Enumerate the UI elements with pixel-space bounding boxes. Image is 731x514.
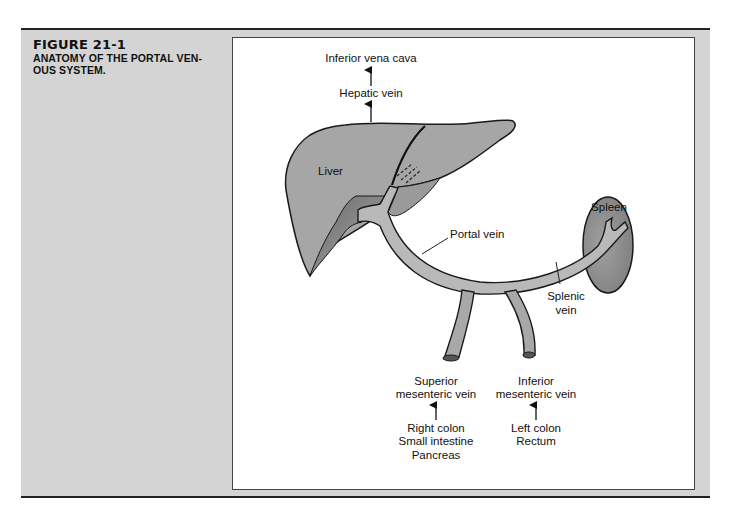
label-imv-source-1: Left colon [511,422,561,434]
inferior-mesenteric-vein [505,290,535,356]
label-imv-2: mesenteric vein [496,388,577,400]
label-smv-source-2: Small intestine [399,435,474,447]
portal-vein-leader [422,238,448,254]
portal-venous-diagram: Inferior vena cava Hepatic vein Liver Sp… [0,0,731,514]
label-splenic-vein-2: vein [555,304,576,316]
label-inferior-vena-cava: Inferior vena cava [325,52,417,64]
label-portal-vein: Portal vein [450,228,504,240]
superior-mesenteric-vein [444,290,474,359]
label-imv-1: Inferior [518,375,554,387]
label-hepatic-vein: Hepatic vein [339,87,402,99]
imv-cut-end [523,352,535,358]
label-splenic-vein-1: Splenic [547,290,585,302]
label-smv-source-1: Right colon [407,422,465,434]
label-spleen: Spleen [591,201,627,213]
label-liver: Liver [318,165,343,177]
smv-cut-end [443,355,459,361]
label-imv-source-2: Rectum [516,435,556,447]
label-smv-2: mesenteric vein [396,388,477,400]
label-smv-source-3: Pancreas [412,449,461,461]
label-smv-1: Superior [414,375,458,387]
